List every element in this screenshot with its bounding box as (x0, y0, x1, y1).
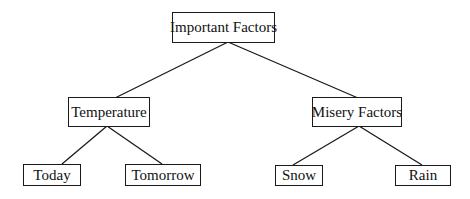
node-label: Snow (282, 168, 316, 183)
node-misery-factors: Misery Factors (312, 97, 402, 127)
node-label: Important Factors (170, 20, 277, 35)
edge-misery-rain (359, 126, 422, 165)
node-today: Today (23, 164, 81, 186)
edge-root-misery (228, 42, 358, 98)
node-label: Temperature (71, 105, 147, 120)
node-label: Tomorrow (131, 168, 194, 183)
node-temperature: Temperature (68, 97, 150, 127)
edge-temperature-tomorrow (107, 126, 162, 164)
edge-temperature-today (62, 126, 107, 164)
node-snow: Snow (275, 165, 323, 186)
node-label: Misery Factors (312, 105, 402, 120)
edge-root-temperature (115, 42, 228, 98)
factor-tree-diagram: Important Factors Temperature Misery Fac… (0, 0, 470, 199)
node-rain: Rain (395, 165, 451, 186)
node-important-factors: Important Factors (172, 12, 275, 43)
node-label: Today (33, 168, 70, 183)
edge-misery-snow (293, 126, 359, 165)
node-tomorrow: Tomorrow (125, 164, 201, 186)
node-label: Rain (409, 168, 437, 183)
